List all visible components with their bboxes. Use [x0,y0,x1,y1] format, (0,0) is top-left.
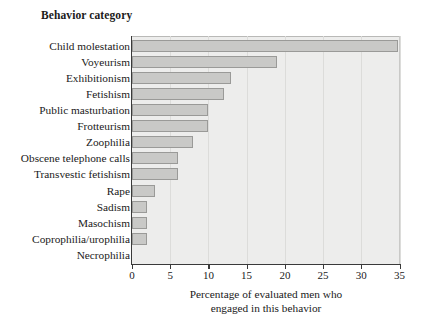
category-label: Sadism [97,199,130,215]
bar [132,136,193,148]
bar-row: Necrophilia [0,247,423,263]
x-axis-label-line-2: engaged in this behavior [211,302,322,314]
bar [132,217,147,229]
bar [132,152,178,164]
x-axis-label-line-1: Percentage of evaluated men who [190,288,342,300]
bar-row: Coprophilia/urophilia [0,231,423,247]
bar-row: Sadism [0,199,423,215]
x-tick-label-25: 25 [318,269,329,281]
x-tick-label-0: 0 [129,269,135,281]
category-label: Zoophilia [86,134,130,150]
bar [132,168,178,180]
bar-row: Child molestation [0,38,423,54]
bar [132,72,231,84]
bar-row: Public masturbation [0,102,423,118]
bar [132,88,224,100]
plot-top-border [132,36,400,37]
bar [132,185,155,197]
x-axis-label: Percentage of evaluated men who engaged … [132,288,400,315]
bar-row: Obscene telephone calls [0,150,423,166]
category-label: Obscene telephone calls [21,150,130,166]
bar-chart-figure: Behavior category 05101520253035 Child m… [0,0,423,319]
bar [132,120,208,132]
x-tick-label-20: 20 [279,269,290,281]
category-label: Child molestation [49,38,130,54]
category-label: Rape [107,183,130,199]
category-label: Masochism [78,215,130,231]
x-tick-label-15: 15 [241,269,252,281]
bar-row: Transvestic fetishism [0,166,423,182]
category-label: Transvestic fetishism [34,166,130,182]
x-tick-label-30: 30 [356,269,367,281]
x-tick-label-5: 5 [167,269,173,281]
bar [132,56,277,68]
bar-row: Fetishism [0,86,423,102]
bar-row: Voyeurism [0,54,423,70]
bar-row: Rape [0,183,423,199]
x-axis-line [132,264,400,265]
category-label: Voyeurism [81,54,130,70]
category-label: Necrophilia [77,247,130,263]
category-label: Coprophilia/urophilia [32,231,130,247]
bar-row: Exhibitionism [0,70,423,86]
bar-row: Zoophilia [0,134,423,150]
category-label: Fetishism [86,86,130,102]
category-label: Public masturbation [39,102,130,118]
category-axis-title: Behavior category [41,9,132,21]
category-label: Exhibitionism [66,70,130,86]
bar [132,233,147,245]
bar [132,104,208,116]
x-tick-label-35: 35 [394,269,405,281]
x-tick-label-10: 10 [203,269,214,281]
bar [132,201,147,213]
bar-row: Frotteurism [0,118,423,134]
bar [132,40,398,52]
bar-row: Masochism [0,215,423,231]
category-label: Frotteurism [77,118,130,134]
